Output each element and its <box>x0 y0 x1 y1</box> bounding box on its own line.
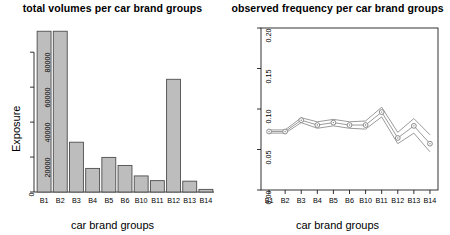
bar-chart-ytick-label: 40000 <box>43 123 52 143</box>
line-chart-ytick-label: 0.05 <box>264 150 273 164</box>
bar-chart-panel: total volumes per car brand groups car b… <box>0 0 225 235</box>
bar-chart-yaxis-title: Exposure <box>10 106 22 152</box>
line-chart-ytick-label: 0.20 <box>264 29 273 43</box>
bar-chart-ytick-label: 60000 <box>43 88 52 108</box>
bar-chart-ytick-label: 20000 <box>43 158 52 178</box>
line-chart-ytick-label: 0.15 <box>264 69 273 83</box>
bar-chart-ytick-label: 80000 <box>43 53 52 73</box>
figure-canvas: total volumes per car brand groups car b… <box>0 0 450 235</box>
line-chart-xtick-label: B14 <box>416 196 444 205</box>
bar-chart-xtick-label: B14 <box>192 196 220 205</box>
bar-chart-xaxis-title: car brand groups <box>0 219 225 231</box>
line-chart-ytick-label: 0.10 <box>264 110 273 124</box>
line-chart-ytick-label: 0.00 <box>264 191 273 205</box>
line-chart-xaxis-title: car brand groups <box>225 219 450 231</box>
line-chart-panel: observed frequency per car brand groups … <box>225 0 450 235</box>
bar-chart-ytick-label: 0 <box>27 193 36 197</box>
